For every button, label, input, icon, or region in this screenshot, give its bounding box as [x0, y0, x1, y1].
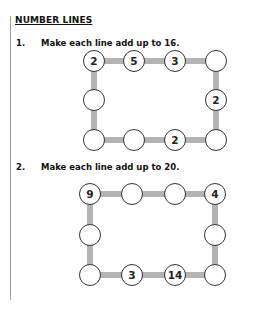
number-circle[interactable]: [164, 183, 186, 205]
number-circle[interactable]: [204, 264, 226, 286]
number-circle[interactable]: [79, 224, 101, 246]
connector-bottom: [90, 272, 215, 278]
number-circle[interactable]: 3: [121, 264, 143, 286]
number-circle[interactable]: 9: [79, 183, 101, 205]
puzzle-2: 9 4 3 14: [0, 0, 269, 315]
number-circle[interactable]: [121, 183, 143, 205]
number-circle[interactable]: 4: [204, 183, 226, 205]
number-circle[interactable]: 14: [164, 264, 186, 286]
number-circle[interactable]: [79, 264, 101, 286]
connector-top: [90, 191, 215, 197]
number-circle[interactable]: [204, 224, 226, 246]
